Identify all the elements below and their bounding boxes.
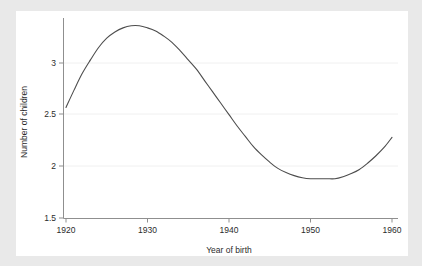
y-tick-marks [59, 63, 64, 218]
y-tick-label-1point5: 1.5 [34, 214, 56, 223]
figure-container: 3 2.5 2 1.5 1920 1930 1940 1950 1960 Yea… [0, 0, 422, 266]
x-tick-label-1950: 1950 [301, 226, 320, 235]
x-tick-label-1930: 1930 [138, 226, 157, 235]
x-axis-title: Year of birth [206, 246, 252, 255]
y-axis-title: Number of children [20, 86, 29, 158]
x-tick-label-1920: 1920 [57, 226, 76, 235]
y-tick-label-2point5: 2.5 [34, 110, 56, 119]
y-tick-label-3: 3 [34, 59, 56, 68]
x-tick-marks [66, 219, 392, 223]
gridlines [63, 63, 398, 166]
x-tick-label-1940: 1940 [220, 226, 239, 235]
axis-spines [64, 18, 399, 219]
x-tick-label-1960: 1960 [383, 226, 402, 235]
data-series-line [66, 26, 392, 179]
y-tick-label-2: 2 [34, 162, 56, 171]
